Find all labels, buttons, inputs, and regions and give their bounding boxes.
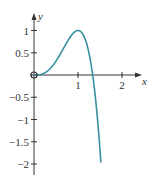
x-axis: x [30,73,147,88]
y-tick-label: 0.5 [15,47,29,59]
y-ticks: 10.5−0.5−1−1.5−2 [9,25,37,171]
y-axis: y [32,10,44,175]
x-axis-label: x [141,75,147,87]
y-axis-arrow-icon [32,13,37,20]
y-tick-label: −1 [17,114,29,126]
x-tick-label: 1 [75,79,81,91]
y-tick-label: −2 [17,158,29,170]
chart: x y 12 10.5−0.5−1−1.5−2 [0,0,158,181]
x-tick-label: 2 [119,79,125,91]
y-tick-label: −1.5 [9,136,29,148]
y-tick-label: 1 [24,25,30,37]
data-series-curve [34,31,101,163]
y-axis-label: y [37,10,43,22]
x-axis-arrow-icon [135,73,142,78]
y-tick-label: −0.5 [9,91,29,103]
